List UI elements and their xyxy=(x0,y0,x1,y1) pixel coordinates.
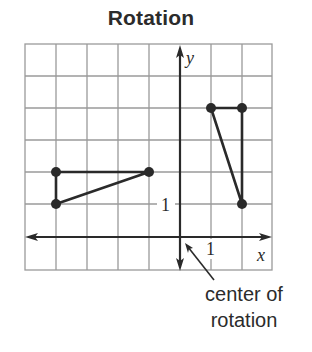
vertex-point xyxy=(144,167,154,177)
y-tick-label: 1 xyxy=(161,195,170,215)
vertex-point xyxy=(51,167,61,177)
vertex-point xyxy=(237,103,247,113)
center-of-rotation-label: center of rotation xyxy=(186,281,302,333)
vertex-point xyxy=(51,199,61,209)
vertex-point xyxy=(237,199,247,209)
vertex-point xyxy=(206,103,216,113)
x-tick-label: 1 xyxy=(206,239,215,259)
original-triangle xyxy=(51,167,154,209)
rotated-triangle xyxy=(206,103,247,209)
y-axis-label: y xyxy=(184,48,194,68)
x-axis-label: x xyxy=(256,245,265,265)
caption-line-1: center of xyxy=(186,281,302,307)
caption-line-2: rotation xyxy=(186,307,302,333)
